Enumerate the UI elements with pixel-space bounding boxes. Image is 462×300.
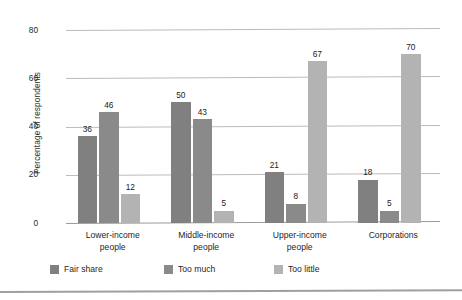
legend-item[interactable]: Fair share xyxy=(50,262,103,276)
bar xyxy=(401,54,421,223)
plot-area: 020406080364612Lower-incomepeople50435Mi… xyxy=(66,18,440,223)
bar-value-label: 50 xyxy=(165,90,197,100)
gridline xyxy=(66,28,440,31)
legend-swatch-icon xyxy=(164,265,173,274)
x-category-label: Corporations xyxy=(333,230,455,242)
gridline xyxy=(66,125,440,128)
bar-value-label: 46 xyxy=(93,100,125,110)
bar-value-label: 43 xyxy=(187,107,219,117)
legend-label: Too much xyxy=(178,264,215,274)
x-category-label-line: people xyxy=(239,242,361,254)
x-category-label-line: Corporations xyxy=(333,230,455,242)
y-tick-label: 60 xyxy=(8,73,38,83)
legend-swatch-icon xyxy=(274,265,283,274)
bar xyxy=(78,136,98,223)
y-tick-label: 40 xyxy=(8,121,38,131)
gridline xyxy=(66,76,440,79)
bar-value-label: 67 xyxy=(302,49,334,59)
bar-value-label: 70 xyxy=(395,42,427,52)
bar xyxy=(214,211,234,223)
bar xyxy=(380,211,400,223)
bar-value-label: 12 xyxy=(115,182,147,192)
chart-legend: Fair shareToo muchToo little xyxy=(0,262,462,278)
gridline xyxy=(66,173,440,176)
bar xyxy=(286,204,306,223)
bottom-rule-divider xyxy=(0,289,462,293)
y-tick-label: 80 xyxy=(8,25,38,35)
legend-item[interactable]: Too little xyxy=(274,262,320,276)
bar-value-label: 5 xyxy=(208,198,240,208)
bar xyxy=(99,112,119,223)
legend-item[interactable]: Too much xyxy=(164,262,215,276)
legend-swatch-icon xyxy=(50,265,59,274)
bar-value-label: 18 xyxy=(352,167,384,177)
y-tick-label: 20 xyxy=(8,169,38,179)
bar xyxy=(308,61,328,223)
y-tick-label: 0 xyxy=(8,218,38,228)
bar xyxy=(121,194,141,223)
bar-chart: Percentage of respondents 02040608036461… xyxy=(0,0,462,300)
legend-label: Fair share xyxy=(64,264,103,274)
bar-value-label: 21 xyxy=(259,160,291,170)
bar xyxy=(171,102,191,223)
legend-label: Too little xyxy=(288,264,320,274)
